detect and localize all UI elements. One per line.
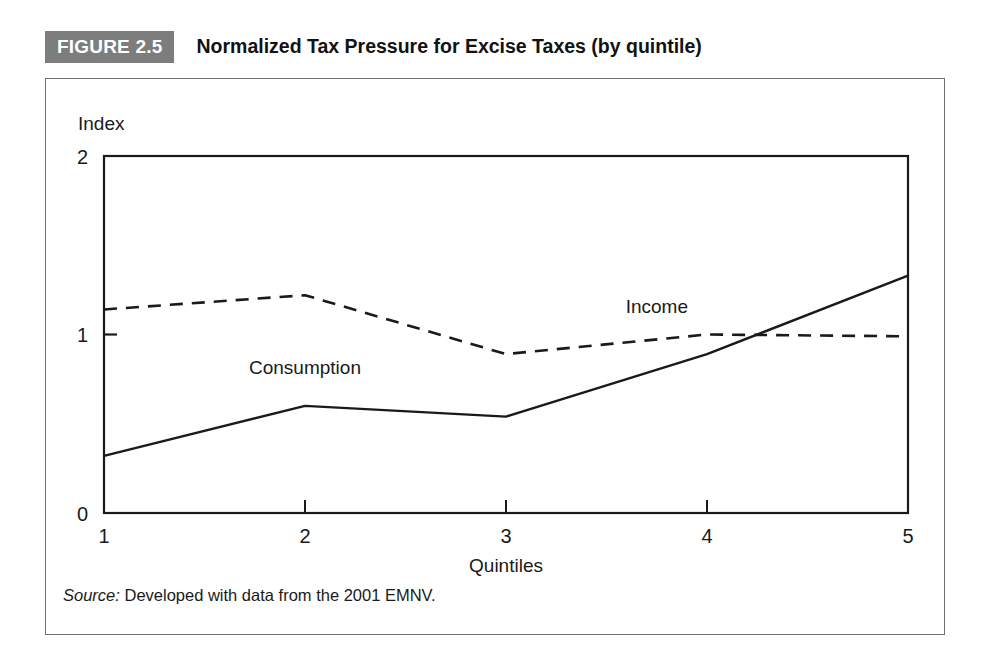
- figure-container: FIGURE 2.5 Normalized Tax Pressure for E…: [0, 0, 991, 663]
- figure-header: FIGURE 2.5 Normalized Tax Pressure for E…: [45, 28, 945, 66]
- source-note: Source: Developed with data from the 200…: [63, 586, 436, 605]
- figure-title: Normalized Tax Pressure for Excise Taxes…: [196, 37, 701, 57]
- figure-frame: [45, 78, 945, 635]
- figure-number-badge: FIGURE 2.5: [45, 31, 174, 63]
- source-keyword: Source:: [63, 586, 120, 604]
- source-text: Developed with data from the 2001 EMNV.: [120, 586, 436, 604]
